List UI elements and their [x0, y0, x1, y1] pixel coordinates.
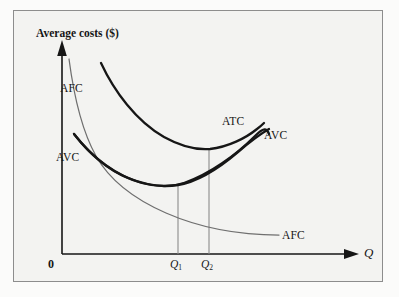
avc-curve: [74, 130, 269, 187]
y-axis: [57, 40, 67, 254]
cost-curves-chart: [14, 11, 384, 283]
avc-left-label: AVC: [56, 151, 79, 163]
afc-lower-label: AFC: [282, 229, 305, 241]
x-axis-label: Q: [364, 245, 373, 261]
atc-curve: [101, 63, 264, 149]
tick-label-q1: Q1: [170, 258, 182, 270]
tick-label-q2: Q2: [201, 258, 213, 270]
afc-upper-label: AFC: [60, 82, 83, 94]
afc-curve: [69, 59, 279, 235]
origin-label: 0: [48, 257, 54, 272]
figure-frame: Average costs ($) AFC AVC ATC AVC AFC 0 …: [13, 10, 383, 282]
avc-right-label: AVC: [264, 129, 287, 141]
figure-page: Average costs ($) AFC AVC ATC AVC AFC 0 …: [0, 0, 399, 297]
y-axis-label: Average costs ($): [36, 27, 119, 39]
avc-curve-main: [74, 129, 269, 186]
atc-label: ATC: [222, 115, 244, 127]
